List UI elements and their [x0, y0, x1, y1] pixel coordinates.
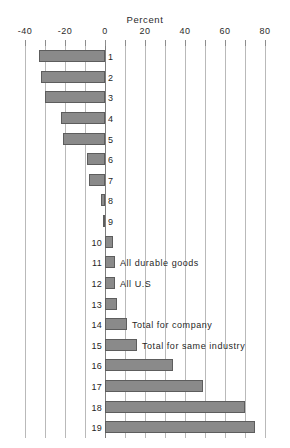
bar — [105, 401, 245, 413]
bar-category-label: 17 — [91, 383, 102, 392]
bar-row: 10 — [0, 232, 290, 253]
bar-row: 14Total for company — [0, 314, 290, 335]
bar-category-label: 16 — [91, 362, 102, 371]
x-tick-label: 60 — [219, 26, 230, 36]
bar — [39, 50, 105, 62]
bar — [105, 421, 255, 433]
bar — [63, 133, 105, 145]
bar-category-label: 10 — [91, 239, 102, 248]
bar-category-label: 9 — [108, 218, 113, 227]
bar-row: 1 — [0, 46, 290, 67]
bar-category-label: 5 — [108, 136, 113, 145]
bar-row: 4 — [0, 108, 290, 129]
bar-category-label: 11 — [92, 259, 102, 268]
bar-row: 3 — [0, 87, 290, 108]
bar-category-label: 13 — [91, 301, 102, 310]
bar-category-label: 8 — [108, 197, 113, 206]
chart-title: Percent — [0, 14, 290, 25]
bar-category-label: 12 — [91, 280, 102, 289]
bar-row: 5 — [0, 129, 290, 150]
bar — [105, 380, 203, 392]
bar-category-label: 19 — [91, 424, 102, 433]
x-tick-label: 20 — [139, 26, 150, 36]
bar-category-label: 18 — [91, 404, 102, 413]
x-tick-label: -40 — [18, 26, 33, 36]
bar — [105, 318, 127, 330]
x-tick-label: -20 — [58, 26, 73, 36]
bar-row: 13 — [0, 294, 290, 315]
bar-row: 8 — [0, 190, 290, 211]
bar-annotation: Total for same industry — [142, 342, 245, 351]
bar — [103, 215, 105, 227]
plot-area: 1234567891011All durable goods12All U.S1… — [0, 46, 290, 438]
bar-row: 18 — [0, 397, 290, 418]
bar — [105, 256, 115, 268]
bar-category-label: 3 — [108, 94, 113, 103]
bar-row: 2 — [0, 67, 290, 88]
bar-row: 19 — [0, 417, 290, 438]
bar-row: 7 — [0, 170, 290, 191]
bar-category-label: 7 — [108, 177, 113, 186]
bar — [41, 71, 105, 83]
bar-category-label: 14 — [91, 321, 102, 330]
bar — [105, 277, 115, 289]
bar — [105, 339, 137, 351]
bar-category-label: 4 — [108, 115, 113, 124]
bar — [105, 236, 113, 248]
bar — [101, 194, 105, 206]
bar-category-label: 15 — [91, 342, 102, 351]
x-tick-label: 40 — [179, 26, 190, 36]
bar-row: 12All U.S — [0, 273, 290, 294]
bar — [89, 174, 105, 186]
bar-row: 17 — [0, 376, 290, 397]
bar-row: 16 — [0, 355, 290, 376]
x-tick-label: 0 — [102, 26, 108, 36]
bar-category-label: 2 — [108, 74, 113, 83]
bar-row: 15Total for same industry — [0, 335, 290, 356]
bar — [105, 298, 117, 310]
bar-chart: Percent -40-20020406080 1234567891011All… — [0, 0, 290, 448]
bar-annotation: All durable goods — [120, 259, 199, 268]
bar-row: 9 — [0, 211, 290, 232]
bar — [45, 91, 105, 103]
bar — [105, 359, 173, 371]
bar-annotation: All U.S — [120, 280, 151, 289]
bar-row: 6 — [0, 149, 290, 170]
x-tick-label: 80 — [259, 26, 270, 36]
bar — [87, 153, 105, 165]
bar-category-label: 1 — [108, 53, 113, 62]
bar-annotation: Total for company — [132, 321, 212, 330]
bar-row: 11All durable goods — [0, 252, 290, 273]
bar-category-label: 6 — [108, 156, 113, 165]
bar — [61, 112, 105, 124]
